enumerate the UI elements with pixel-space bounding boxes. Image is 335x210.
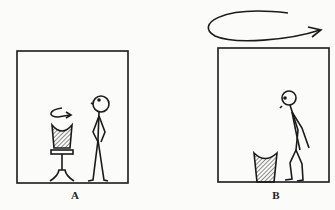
panel-b-label: B [266,189,286,201]
panel-b [208,11,329,182]
bucket [254,153,277,182]
figure-illustration [0,0,335,210]
swivel-stool [50,125,74,181]
rotation-arrow-large-icon [208,11,321,41]
rotation-arrow-small-icon [51,108,71,118]
panel-a-frame [17,51,128,183]
stick-figure-upright [88,96,109,181]
panel-a [17,51,128,183]
panel-a-label: A [65,189,85,201]
stick-figure-stooped [280,91,309,181]
